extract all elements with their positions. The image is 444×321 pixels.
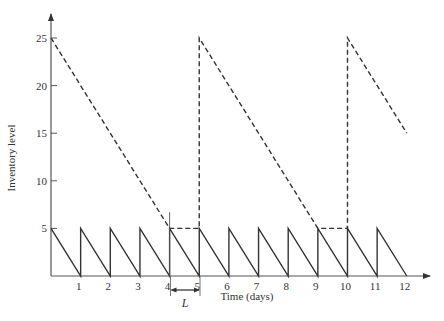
dashed-series-line [51,38,407,228]
x-tick-label: 4 [165,280,171,292]
x-tick-label: 12 [399,280,410,292]
x-tick-label: 3 [135,280,141,292]
y-ticks: 510152025 [36,32,57,234]
y-tick-label: 15 [36,127,48,139]
y-tick-label: 20 [36,80,48,92]
inventory-chart: 510152025 123456789101112 Inventory leve… [0,0,444,321]
y-tick-label: 10 [36,175,48,187]
y-tick-label: 25 [36,32,48,44]
series-group [51,38,407,276]
sawtooth-series-line [51,228,407,276]
x-tick-label: 9 [313,280,319,292]
y-tick-label: 5 [42,222,48,234]
x-tick-label: 1 [76,280,82,292]
x-tick-label: 10 [340,280,352,292]
x-tick-label: 11 [370,280,381,292]
lead-time-label: L [181,296,189,310]
axes [51,14,430,276]
x-tick-label: 2 [106,280,112,292]
x-tick-label: 8 [283,280,289,292]
y-axis-title: Inventory level [5,125,17,192]
x-axis-title: Time (days) [220,290,273,303]
